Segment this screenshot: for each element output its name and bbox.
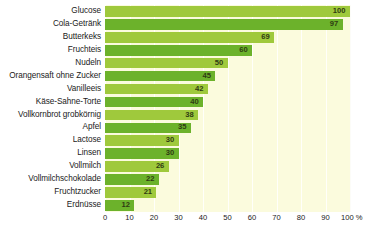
bar — [105, 97, 203, 108]
bar-track: 30 — [105, 134, 350, 147]
bar-row: Käse-Sahne-Torte40 — [0, 96, 365, 109]
category-label: Nudeln — [0, 57, 101, 70]
bar-track: 97 — [105, 18, 350, 31]
bar-track: 60 — [105, 44, 350, 57]
category-label: Orangensaft ohne Zucker — [0, 70, 101, 83]
bar-row: Apfel35 — [0, 121, 365, 134]
category-label: Vanilleeis — [0, 83, 101, 96]
x-tick-label: 80 — [297, 213, 305, 222]
bar — [105, 84, 208, 95]
category-label: Linsen — [0, 147, 101, 160]
bar-track: 42 — [105, 83, 350, 96]
bar-track: 50 — [105, 57, 350, 70]
category-label: Butterkeks — [0, 31, 101, 44]
bar — [105, 32, 274, 43]
bar-value-label: 26 — [156, 160, 164, 173]
category-label: Fruchtzucker — [0, 186, 101, 199]
glycemic-index-bar-chart: Glucose100Cola-Getränk97Butterkeks69Fruc… — [0, 0, 365, 233]
category-label: Käse-Sahne-Torte — [0, 96, 101, 109]
bar-track: 26 — [105, 160, 350, 173]
bar-value-label: 38 — [185, 109, 193, 122]
bar-track: 12 — [105, 199, 350, 212]
x-tick-label: 50 — [223, 213, 231, 222]
bar — [105, 58, 228, 69]
bar-row: Fruchteis60 — [0, 44, 365, 57]
bar-row: Orangensaft ohne Zucker45 — [0, 70, 365, 83]
category-label: Glucose — [0, 5, 101, 18]
bar-value-label: 69 — [261, 31, 269, 44]
bar-row: Vollmilchschokolade22 — [0, 173, 365, 186]
bar-value-label: 97 — [330, 18, 338, 31]
category-label: Lactose — [0, 134, 101, 147]
bar-rows: Glucose100Cola-Getränk97Butterkeks69Fruc… — [0, 5, 365, 212]
bar — [105, 45, 252, 56]
x-tick-label: 90 — [321, 213, 329, 222]
bar-track: 69 — [105, 31, 350, 44]
bar — [105, 19, 343, 30]
bar-value-label: 22 — [146, 173, 154, 186]
category-label: Apfel — [0, 121, 101, 134]
bar-value-label: 50 — [215, 57, 223, 70]
bar-value-label: 45 — [202, 70, 210, 83]
bar-value-label: 12 — [122, 199, 130, 212]
bar-value-label: 30 — [166, 147, 174, 160]
bar-track: 40 — [105, 96, 350, 109]
bar-row: Lactose30 — [0, 134, 365, 147]
x-tick-label: 20 — [150, 213, 158, 222]
bar-row: Vollkornbrot grobkörnig38 — [0, 109, 365, 122]
category-label: Erdnüsse — [0, 199, 101, 212]
bar — [105, 71, 215, 82]
bar-value-label: 35 — [178, 121, 186, 134]
x-tick-label: 70 — [272, 213, 280, 222]
bar-row: Linsen30 — [0, 147, 365, 160]
bar-track: 22 — [105, 173, 350, 186]
x-tick-label: 30 — [174, 213, 182, 222]
bar — [105, 6, 350, 17]
bar-track: 35 — [105, 121, 350, 134]
bar-row: Nudeln50 — [0, 57, 365, 70]
bar-track: 38 — [105, 109, 350, 122]
x-tick-label: 60 — [248, 213, 256, 222]
bar-row: Cola-Getränk97 — [0, 18, 365, 31]
category-label: Cola-Getränk — [0, 18, 101, 31]
bar-row: Vanilleeis42 — [0, 83, 365, 96]
category-label: Vollkornbrot grobkörnig — [0, 109, 101, 122]
category-label: Vollmilch — [0, 160, 101, 173]
bar-row: Vollmilch26 — [0, 160, 365, 173]
bar-row: Butterkeks69 — [0, 31, 365, 44]
category-label: Vollmilchschokolade — [0, 173, 101, 186]
bar-row: Fruchtzucker21 — [0, 186, 365, 199]
bar-track: 21 — [105, 186, 350, 199]
x-tick-label: 10 — [125, 213, 133, 222]
bar-track: 30 — [105, 147, 350, 160]
bar-track: 100 — [105, 5, 350, 18]
bar-row: Erdnüsse12 — [0, 199, 365, 212]
x-tick-label: 0 — [103, 213, 107, 222]
bar-track: 45 — [105, 70, 350, 83]
x-tick-label: 100 % — [341, 213, 363, 222]
bar-value-label: 60 — [239, 44, 247, 57]
bar-value-label: 40 — [190, 96, 198, 109]
bar-value-label: 100 — [333, 5, 346, 18]
bar-value-label: 30 — [166, 134, 174, 147]
x-axis: 0102030405060708090100 % — [105, 213, 365, 233]
bar-row: Glucose100 — [0, 5, 365, 18]
bar-value-label: 42 — [195, 83, 203, 96]
x-tick-label: 40 — [199, 213, 207, 222]
category-label: Fruchteis — [0, 44, 101, 57]
bar — [105, 110, 198, 121]
bar-value-label: 21 — [144, 186, 152, 199]
